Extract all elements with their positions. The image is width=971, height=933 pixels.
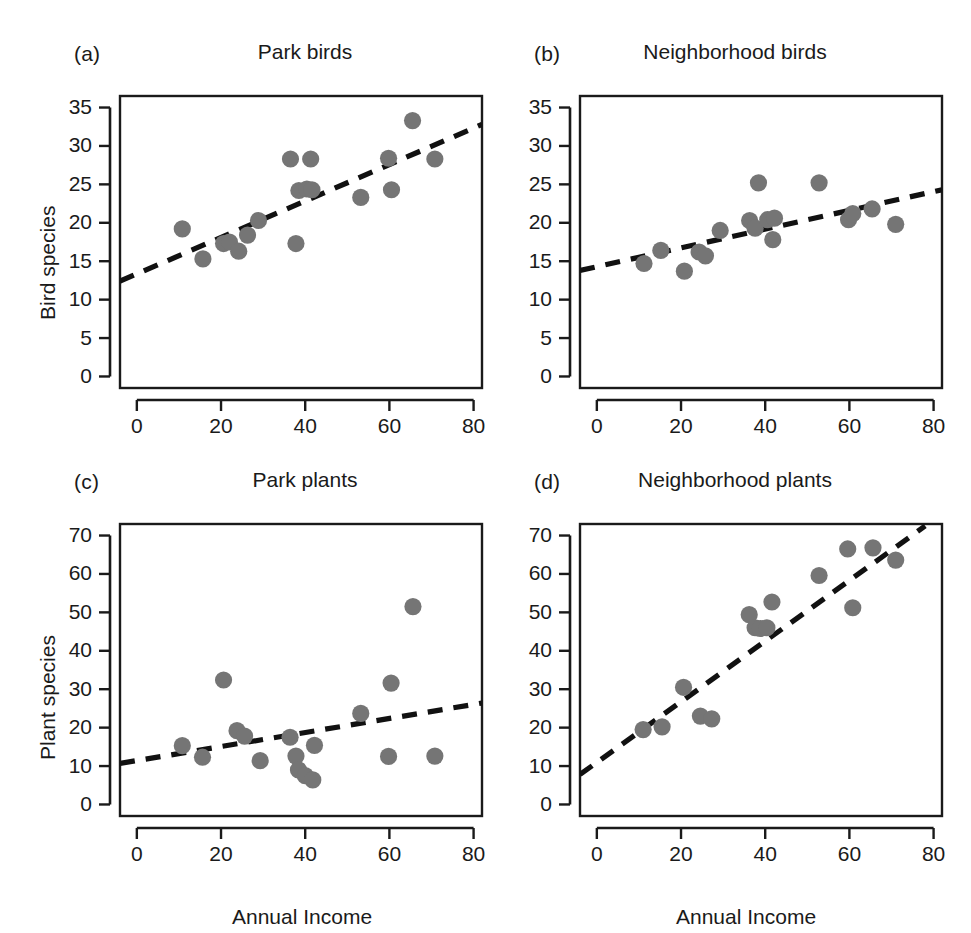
data-point — [303, 181, 320, 198]
y-tick-label: 50 — [529, 600, 552, 623]
y-tick-label: 5 — [540, 326, 552, 349]
y-tick-label: 35 — [69, 95, 92, 118]
data-point — [839, 540, 856, 557]
y-tick-label: 10 — [529, 287, 552, 310]
y-tick-label: 60 — [529, 561, 552, 584]
x-tick-label: 60 — [378, 842, 401, 865]
data-point — [697, 247, 714, 264]
y-tick-label: 25 — [69, 172, 92, 195]
data-point — [383, 181, 400, 198]
data-point — [763, 593, 780, 610]
y-tick-label: 30 — [529, 677, 552, 700]
y-tick-label: 60 — [69, 561, 92, 584]
data-point — [352, 189, 369, 206]
data-point — [635, 255, 652, 272]
y-tick-label: 0 — [80, 792, 92, 815]
x-tick-label: 80 — [922, 842, 945, 865]
data-point — [887, 552, 904, 569]
data-point — [758, 619, 775, 636]
y-tick-label: 10 — [69, 754, 92, 777]
x-tick-label: 20 — [669, 414, 692, 437]
x-tick-label: 0 — [131, 842, 143, 865]
panel-a: (a) Park birds Bird species 051015202530… — [0, 0, 486, 466]
data-point — [810, 567, 827, 584]
x-tick-label: 0 — [131, 414, 143, 437]
data-point — [653, 718, 670, 735]
data-point — [306, 737, 323, 754]
x-tick-label: 40 — [754, 842, 777, 865]
data-point — [174, 220, 191, 237]
data-point — [281, 729, 298, 746]
data-point — [844, 599, 861, 616]
y-tick-label: 20 — [69, 210, 92, 233]
y-tick-label: 0 — [80, 364, 92, 387]
y-tick-label: 20 — [69, 715, 92, 738]
x-tick-label: 0 — [591, 842, 603, 865]
x-tick-label: 40 — [754, 414, 777, 437]
y-tick-label: 5 — [80, 326, 92, 349]
panel-b: (b) Neighborhood birds 05101520253035020… — [460, 0, 971, 466]
data-point — [382, 674, 399, 691]
data-point — [703, 710, 720, 727]
data-point — [864, 200, 881, 217]
plot-box — [580, 96, 942, 388]
data-point — [236, 727, 253, 744]
data-point — [287, 235, 304, 252]
y-tick-label: 15 — [529, 249, 552, 272]
figure-canvas: (a) Park birds Bird species 051015202530… — [0, 0, 971, 933]
data-point — [230, 243, 247, 260]
x-tick-label: 20 — [209, 842, 232, 865]
regression-line — [580, 526, 925, 775]
data-point — [810, 174, 827, 191]
x-tick-label: 20 — [209, 414, 232, 437]
x-tick-label: 0 — [591, 414, 603, 437]
data-point — [194, 749, 211, 766]
data-point — [675, 679, 692, 696]
x-tick-label: 40 — [294, 842, 317, 865]
data-point — [215, 671, 232, 688]
data-point — [194, 250, 211, 267]
data-point — [404, 598, 421, 615]
y-tick-label: 40 — [69, 638, 92, 661]
data-point — [864, 539, 881, 556]
data-point — [380, 748, 397, 765]
panel-c: (c) Park plants Plant species Annual Inc… — [0, 460, 486, 933]
data-point — [250, 212, 267, 229]
data-point — [712, 222, 729, 239]
data-point — [304, 771, 321, 788]
y-tick-label: 20 — [529, 210, 552, 233]
data-point — [764, 231, 781, 248]
panel-c-plot: 010203040506070020406080 — [0, 460, 486, 933]
panel-a-plot: 05101520253035020406080 — [0, 0, 486, 466]
data-point — [252, 752, 269, 769]
data-point — [635, 721, 652, 738]
x-tick-label: 60 — [378, 414, 401, 437]
x-tick-label: 60 — [838, 414, 861, 437]
data-point — [844, 205, 861, 222]
data-point — [426, 747, 443, 764]
data-point — [174, 737, 191, 754]
data-point — [426, 150, 443, 167]
y-tick-label: 40 — [529, 638, 552, 661]
data-point — [352, 705, 369, 722]
x-tick-label: 60 — [838, 842, 861, 865]
data-point — [239, 226, 256, 243]
data-point — [302, 150, 319, 167]
y-tick-label: 50 — [69, 600, 92, 623]
y-tick-label: 70 — [69, 523, 92, 546]
x-tick-label: 40 — [294, 414, 317, 437]
y-tick-label: 10 — [69, 287, 92, 310]
data-point — [652, 242, 669, 259]
x-tick-label: 80 — [922, 414, 945, 437]
y-tick-label: 10 — [529, 754, 552, 777]
data-point — [750, 174, 767, 191]
y-tick-label: 30 — [69, 133, 92, 156]
data-point — [282, 150, 299, 167]
regression-line — [120, 124, 482, 281]
panel-b-plot: 05101520253035020406080 — [460, 0, 971, 466]
y-tick-label: 30 — [69, 677, 92, 700]
y-tick-label: 20 — [529, 715, 552, 738]
y-tick-label: 35 — [529, 95, 552, 118]
x-tick-label: 20 — [669, 842, 692, 865]
data-point — [766, 210, 783, 227]
